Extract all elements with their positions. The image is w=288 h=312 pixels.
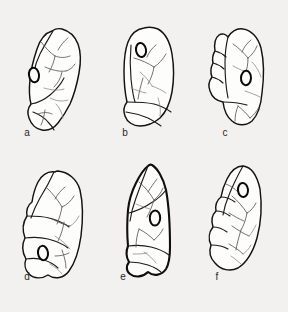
specimen-b-outline [124,27,174,126]
specimen-e-perforation [150,210,161,226]
figure-plate: perforated elongate artifacts shown in l… [0,0,288,312]
plate-canvas: a b [0,0,288,312]
panel-label-c: c [223,127,228,138]
specimen-f-perforation [237,183,248,198]
specimen-c-perforation [241,70,252,85]
panel-label-a: a [24,127,30,138]
panel-label-f: f [216,271,219,282]
panel-label-d: d [24,271,30,282]
panel-label-b: b [122,127,128,138]
panel-label-e: e [120,271,126,282]
